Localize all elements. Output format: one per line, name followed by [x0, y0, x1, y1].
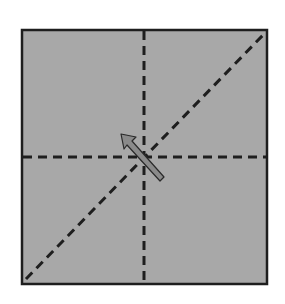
folding-diagram [0, 0, 285, 304]
